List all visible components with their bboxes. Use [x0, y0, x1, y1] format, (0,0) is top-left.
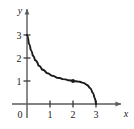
x-tick-label-2: 2 — [71, 109, 76, 120]
y-tick-label-2: 2 — [17, 53, 22, 64]
x-axis-label: x — [123, 108, 129, 119]
x-tick-label-1: 1 — [48, 109, 53, 120]
origin-label: 0 — [18, 109, 23, 120]
y-axis-label: y — [17, 5, 23, 16]
function-curve — [27, 35, 96, 104]
y-tick-label-3: 3 — [17, 30, 22, 41]
plateau-point-marker — [71, 79, 75, 83]
coordinate-plot: 0 1 2 3 1 2 3 x y — [0, 0, 134, 129]
y-axis-arrow-icon — [25, 9, 30, 15]
math-figure-graph: 0 1 2 3 1 2 3 x y — [0, 0, 134, 129]
x-axis-arrow-icon — [116, 102, 122, 107]
y-tick-label-1: 1 — [17, 76, 22, 87]
x-tick-label-3: 3 — [94, 109, 99, 120]
